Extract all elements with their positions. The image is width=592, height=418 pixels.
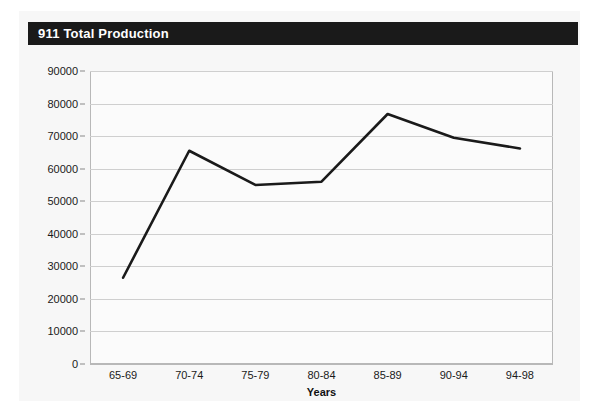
y-tick-label: 50000 [47, 195, 78, 207]
y-tick-label: 10000 [47, 325, 78, 337]
x-tick-label: 80-84 [307, 369, 335, 381]
series-polyline [123, 114, 520, 278]
x-axis: 65-6970-7475-7980-8485-8990-9494-98 [90, 367, 553, 385]
y-tick-mark [80, 266, 85, 267]
y-tick-mark [80, 168, 85, 169]
y-tick-label: 0 [72, 358, 78, 370]
chart-title-bar: 911 Total Production [28, 22, 578, 45]
y-tick-label: 20000 [47, 293, 78, 305]
plot-area-wrapper [90, 71, 553, 364]
y-tick-mark [80, 331, 85, 332]
gridline [90, 364, 553, 365]
y-axis: 0100002000030000400005000060000700008000… [19, 71, 85, 364]
x-tick-label: 85-89 [374, 369, 402, 381]
y-tick-label: 40000 [47, 228, 78, 240]
y-tick-mark [80, 71, 85, 72]
chart-page: 911 Total Production 0100002000030000400… [0, 0, 592, 418]
y-tick-label: 30000 [47, 260, 78, 272]
y-tick-mark [80, 103, 85, 104]
x-tick-label: 65-69 [109, 369, 137, 381]
y-tick-label: 70000 [47, 130, 78, 142]
page-title: 911 Total Production [28, 26, 169, 41]
y-tick-mark [80, 136, 85, 137]
x-tick-label: 75-79 [241, 369, 269, 381]
series-line-chart [90, 71, 553, 364]
y-tick-mark [80, 298, 85, 299]
x-tick-label: 90-94 [440, 369, 468, 381]
x-tick-label: 70-74 [175, 369, 203, 381]
y-tick-label: 80000 [47, 98, 78, 110]
chart-card: 911 Total Production 0100002000030000400… [19, 11, 580, 401]
y-tick-mark [80, 233, 85, 234]
y-tick-label: 90000 [47, 65, 78, 77]
y-tick-mark [80, 201, 85, 202]
x-tick-label: 94-98 [506, 369, 534, 381]
y-tick-mark [80, 364, 85, 365]
x-axis-title: Years [90, 386, 553, 398]
y-tick-label: 60000 [47, 163, 78, 175]
